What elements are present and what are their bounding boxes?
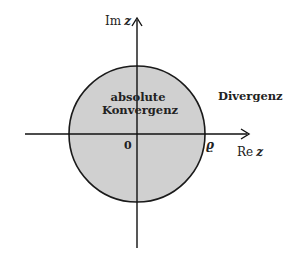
- imaginary-axis-label: Imz: [105, 14, 132, 28]
- convergence-diagram: Imz Rez 0 ϱ absolute Konvergenz Divergen…: [0, 0, 298, 263]
- radius-label: ϱ: [206, 138, 215, 152]
- inside-label-line2: Konvergenz: [102, 103, 179, 117]
- real-axis-label: Rez: [237, 145, 264, 159]
- inside-label-line1: absolute: [111, 90, 166, 104]
- origin-label: 0: [124, 139, 132, 152]
- outside-label: Divergenz: [218, 89, 283, 103]
